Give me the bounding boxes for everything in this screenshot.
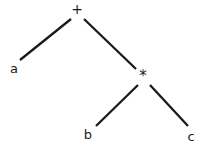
edge-mul-to-b	[96, 85, 138, 126]
edge-root-to-mul	[84, 19, 136, 69]
edge-mul-to-c	[150, 85, 188, 126]
tree-edges-layer	[0, 0, 205, 150]
node-leaf-a: a	[10, 62, 18, 75]
expression-tree-diagram: + a * b c	[0, 0, 205, 150]
node-root-plus: +	[71, 2, 83, 16]
edge-root-to-a	[20, 19, 71, 60]
node-operator-times: *	[139, 69, 147, 84]
node-leaf-c: c	[187, 130, 194, 143]
node-leaf-b: b	[84, 128, 92, 141]
